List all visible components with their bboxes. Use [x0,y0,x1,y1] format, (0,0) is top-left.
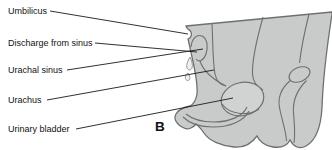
label-discharge-from-sinus: Discharge from sinus [8,38,93,48]
leader-line-urachal-sinus [67,49,203,70]
leader-line-umbilicus [50,11,188,34]
label-urinary-bladder: Urinary bladder [8,124,70,134]
panel-letter: B [155,119,165,134]
leader-line-discharge [95,43,197,52]
label-urachus: Urachus [8,95,42,105]
leader-line-urachus [47,70,214,100]
anatomy-figure: Umbilicus Discharge from sinus Urachal s… [0,0,332,150]
label-urachal-sinus: Urachal sinus [8,65,63,75]
discharge-droplet-1 [187,57,193,70]
label-umbilicus: Umbilicus [8,6,47,16]
